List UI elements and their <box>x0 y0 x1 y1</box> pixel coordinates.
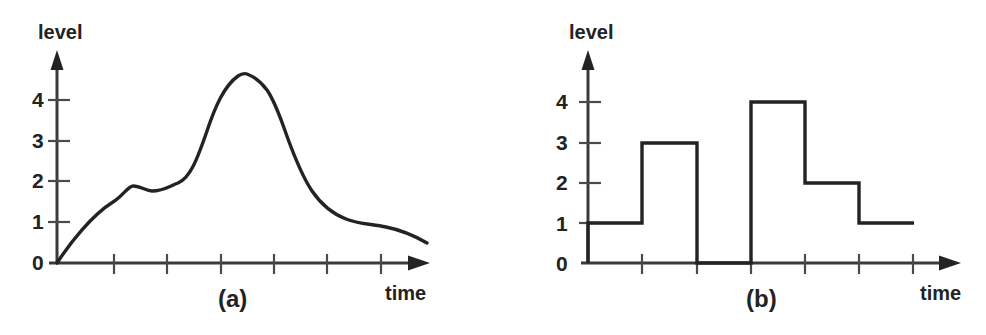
panel-b-y-ticks <box>579 102 601 223</box>
panel-b-step-curve <box>588 102 914 263</box>
panel-a-ytick-2: 2 <box>32 170 44 191</box>
panel-a-level-curve <box>57 74 427 263</box>
panel-b-ytick-3: 3 <box>556 132 568 153</box>
panel-a-x-axis-label: time <box>385 283 426 303</box>
panel-b-ytick-2: 2 <box>556 172 568 193</box>
panel-a-x-axis <box>49 256 430 271</box>
panel-a-ytick-3: 3 <box>32 130 44 151</box>
panel-a-ytick-4: 4 <box>32 89 44 110</box>
panel-a-caption: (a) <box>218 287 247 311</box>
panel-a-continuous-level-chart: level time (a) 4 3 2 1 0 <box>0 0 493 335</box>
panel-b-ytick-0: 0 <box>556 253 568 274</box>
panel-b-x-axis <box>581 256 961 271</box>
panel-a-ytick-0: 0 <box>32 252 44 273</box>
panel-b-y-axis-label: level <box>569 22 613 42</box>
panel-b-step-level-chart: level time (b) 4 3 2 1 0 <box>493 0 986 335</box>
panel-b-ytick-1: 1 <box>556 213 568 234</box>
panel-a-y-axis-label: level <box>38 22 82 42</box>
figure-two-panel-level-vs-time: level time (a) 4 3 2 1 0 <box>0 0 986 335</box>
panel-a-y-ticks <box>48 100 70 222</box>
panel-b-ytick-4: 4 <box>556 91 568 112</box>
panel-a-y-axis <box>51 50 64 263</box>
panel-b-x-axis-label: time <box>920 283 961 303</box>
panel-b-svg <box>493 0 986 335</box>
panel-b-caption: (b) <box>746 287 777 311</box>
panel-a-ytick-1: 1 <box>32 211 44 232</box>
